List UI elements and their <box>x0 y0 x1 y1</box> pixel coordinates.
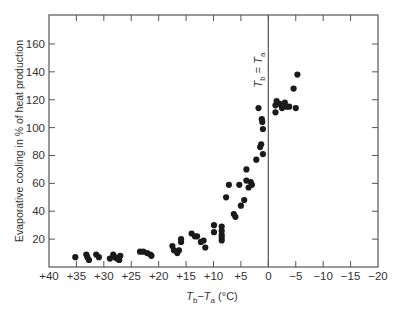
data-points <box>72 72 300 264</box>
x-tick-label: +25 <box>121 270 141 282</box>
data-point <box>226 182 232 188</box>
data-point <box>178 236 184 242</box>
scatter-chart: +40+35+30+25+20+15+10+50−5−10−15−20 2040… <box>0 0 396 311</box>
data-point <box>243 166 249 172</box>
data-point <box>293 105 299 111</box>
x-tick-label: −10 <box>313 270 333 282</box>
tb-equals-ta-annotation: Tb = Ta <box>252 52 267 87</box>
data-point <box>211 229 217 235</box>
data-point <box>202 244 208 250</box>
data-point <box>219 237 225 243</box>
data-point <box>259 116 265 122</box>
x-tick-label: +30 <box>94 270 114 282</box>
data-point <box>255 105 261 111</box>
data-point <box>148 253 154 259</box>
y-tick-label: 80 <box>32 149 45 161</box>
data-point <box>223 194 229 200</box>
data-point <box>238 203 244 209</box>
y-tick-label: 20 <box>32 233 45 245</box>
y-tick-label: 60 <box>32 177 45 189</box>
data-point <box>241 197 247 203</box>
x-axis-label: Tb−Ta (°C) <box>186 290 238 305</box>
data-point <box>211 222 217 228</box>
data-point <box>258 141 264 147</box>
y-tick-label: 160 <box>26 38 45 50</box>
x-tick-label: +15 <box>176 270 196 282</box>
y-tick-label: 120 <box>26 94 45 106</box>
x-tick-label: +40 <box>39 270 59 282</box>
x-axis-ticks: +40+35+30+25+20+15+10+50−5−10−15−20 <box>39 15 388 282</box>
x-tick-label: +20 <box>149 270 169 282</box>
data-point <box>176 247 182 253</box>
x-tick-label: −5 <box>289 270 302 282</box>
data-point <box>260 151 266 157</box>
y-tick-label: 100 <box>26 122 45 134</box>
data-point <box>232 214 238 220</box>
data-point <box>86 257 92 263</box>
data-point <box>201 237 207 243</box>
x-tick-label: +35 <box>67 270 87 282</box>
data-point <box>96 254 102 260</box>
data-point <box>294 72 300 78</box>
data-point <box>117 253 123 259</box>
data-point <box>253 157 259 163</box>
x-tick-label: −15 <box>341 270 361 282</box>
data-point <box>286 104 292 110</box>
data-point <box>72 254 78 260</box>
x-tick-label: 0 <box>265 270 271 282</box>
data-point <box>249 182 255 188</box>
data-point <box>260 126 266 132</box>
y-axis-label: Evaporative cooling in % of heat product… <box>13 40 25 242</box>
x-tick-label: −20 <box>368 270 388 282</box>
x-tick-label: +5 <box>234 270 247 282</box>
data-point <box>236 182 242 188</box>
y-tick-label: 40 <box>32 205 45 217</box>
data-point <box>291 86 297 92</box>
data-point <box>272 109 278 115</box>
x-tick-label: +10 <box>204 270 224 282</box>
y-axis-ticks: 20406080100120140160 <box>26 38 378 245</box>
y-tick-label: 140 <box>26 66 45 78</box>
data-point <box>194 233 200 239</box>
